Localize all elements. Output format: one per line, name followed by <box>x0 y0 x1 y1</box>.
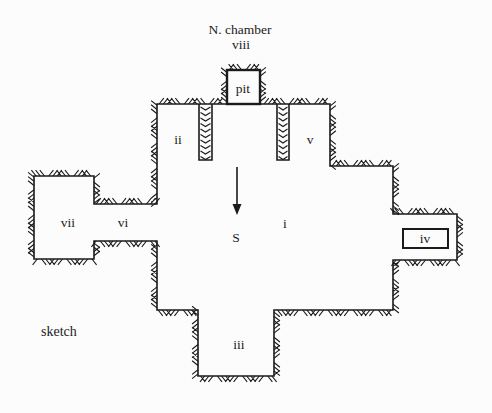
label-vii: vii <box>61 215 76 230</box>
cave-plan-drawing: N. chamberviiipitiivviiviiSiviiisketch <box>0 0 492 413</box>
label-vi: vi <box>118 215 129 230</box>
sketch-figure: N. chamberviiipitiivviiviiSiviiisketch <box>0 0 492 413</box>
label-v: v <box>307 132 314 147</box>
label-i: i <box>283 216 287 231</box>
cave-outline <box>34 104 457 376</box>
label-pit: pit <box>236 81 251 96</box>
label-s: S <box>232 230 240 245</box>
label-iv: iv <box>420 231 431 246</box>
rock-hatching-0 <box>159 98 223 104</box>
label-sketch: sketch <box>41 324 77 339</box>
label-viii: viii <box>232 37 250 52</box>
partition-fill-1 <box>279 107 288 160</box>
label-ii: ii <box>174 132 182 147</box>
label-iii: iii <box>233 337 245 352</box>
partition-fill-0 <box>201 107 211 160</box>
rock-hatching-1 <box>28 98 463 382</box>
label-north-chamber: N. chamber <box>209 22 272 37</box>
south-arrow-head <box>233 204 242 215</box>
